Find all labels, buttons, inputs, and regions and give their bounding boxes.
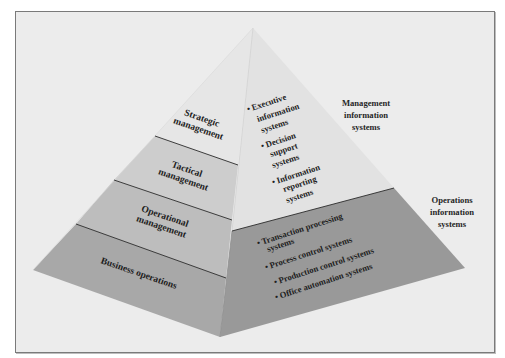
- side-label-line: information: [344, 110, 388, 120]
- side-label-line: systems: [352, 122, 381, 132]
- side-label-operations-information-systems: Operations information systems: [430, 195, 474, 229]
- side-label-management-information-systems: Management information systems: [342, 98, 390, 132]
- side-label-line: systems: [438, 219, 467, 229]
- side-label-line: information: [430, 207, 474, 217]
- side-label-line: Operations: [431, 195, 473, 205]
- pyramid-diagram: Strategic management Tactical management…: [0, 0, 505, 358]
- side-label-line: Management: [342, 98, 390, 108]
